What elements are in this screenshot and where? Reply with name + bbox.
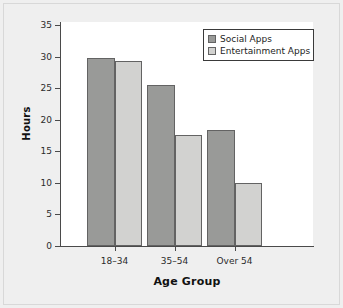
y-tick-mark — [55, 151, 60, 152]
y-tick-label: 25 — [41, 84, 52, 93]
bar-entertainment-2[interactable] — [235, 183, 263, 246]
y-tick-label: 35 — [41, 21, 52, 30]
y-tick-label: 30 — [41, 53, 52, 62]
y-tick-label: 20 — [41, 116, 52, 125]
y-axis-title: Hours — [21, 94, 32, 154]
x-tick-label: 35–54 — [161, 256, 188, 266]
y-tick-mark — [55, 120, 60, 121]
y-tick-label: 10 — [41, 179, 52, 188]
legend-label-social: Social Apps — [220, 34, 272, 44]
y-tick-mark — [55, 25, 60, 26]
x-tick-label: Over 54 — [217, 256, 253, 266]
bar-social-0[interactable] — [87, 58, 115, 246]
x-tick-mark — [175, 246, 176, 251]
x-axis-line — [60, 246, 314, 247]
bar-social-1[interactable] — [147, 85, 175, 246]
legend-swatch-social-icon — [208, 35, 216, 43]
x-tick-label: 18–34 — [101, 256, 128, 266]
y-tick-label: 0 — [46, 242, 52, 251]
chart-legend: Social Apps Entertainment Apps — [203, 29, 314, 61]
legend-item-entertainment[interactable]: Entertainment Apps — [208, 45, 309, 57]
y-tick-mark — [55, 57, 60, 58]
chart-figure: 05101520253035 18–3435–54Over 54 Hours A… — [0, 0, 343, 308]
y-tick-mark — [55, 183, 60, 184]
legend-swatch-entertainment-icon — [208, 47, 216, 55]
y-tick-label: 15 — [41, 147, 52, 156]
bar-entertainment-1[interactable] — [175, 135, 203, 246]
y-tick-label: 5 — [46, 210, 52, 219]
y-axis-line — [60, 22, 61, 247]
x-tick-mark — [115, 246, 116, 251]
bar-entertainment-0[interactable] — [115, 61, 143, 246]
y-tick-mark — [55, 88, 60, 89]
y-tick-mark — [55, 214, 60, 215]
x-tick-mark — [235, 246, 236, 251]
legend-label-entertainment: Entertainment Apps — [220, 46, 310, 56]
y-tick-mark — [55, 246, 60, 247]
x-axis-title: Age Group — [60, 275, 314, 288]
bar-social-2[interactable] — [207, 130, 235, 246]
legend-item-social[interactable]: Social Apps — [208, 33, 309, 45]
